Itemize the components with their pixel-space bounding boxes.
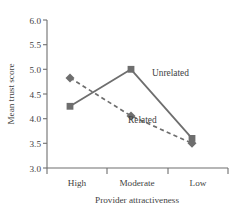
y-axis-title: Mean trust score (6, 63, 16, 124)
data-point-unrelated-high (67, 103, 74, 110)
y-tick-label-3-0: 3.0 (30, 164, 42, 174)
y-tick-label-5-0: 5.0 (30, 65, 42, 75)
data-point-related-high (66, 73, 75, 82)
line-chart: Mean trust score 3.0 3.5 4.0 4.5 5.0 5.5… (0, 0, 244, 211)
x-tick-label-high: High (68, 178, 87, 188)
series-line-related (70, 78, 192, 143)
y-tick-label-5-5: 5.5 (30, 40, 42, 50)
x-tick-label-moderate: Moderate (119, 178, 154, 188)
data-point-unrelated-low (189, 135, 196, 142)
y-tick-label-4-5: 4.5 (30, 90, 42, 100)
series-line-unrelated (70, 69, 192, 138)
y-tick-label-4-0: 4.0 (30, 114, 42, 124)
data-point-unrelated-moderate (128, 66, 135, 73)
x-axis-title: Provider attractiveness (95, 195, 179, 205)
series-label-related: Related (128, 115, 157, 125)
x-tick-label-low: Low (190, 178, 207, 188)
chart-container: Mean trust score 3.0 3.5 4.0 4.5 5.0 5.5… (0, 0, 244, 211)
series-label-unrelated: Unrelated (152, 68, 189, 78)
y-tick-label-3-5: 3.5 (30, 139, 42, 149)
y-tick-label-6-0: 6.0 (30, 16, 42, 26)
